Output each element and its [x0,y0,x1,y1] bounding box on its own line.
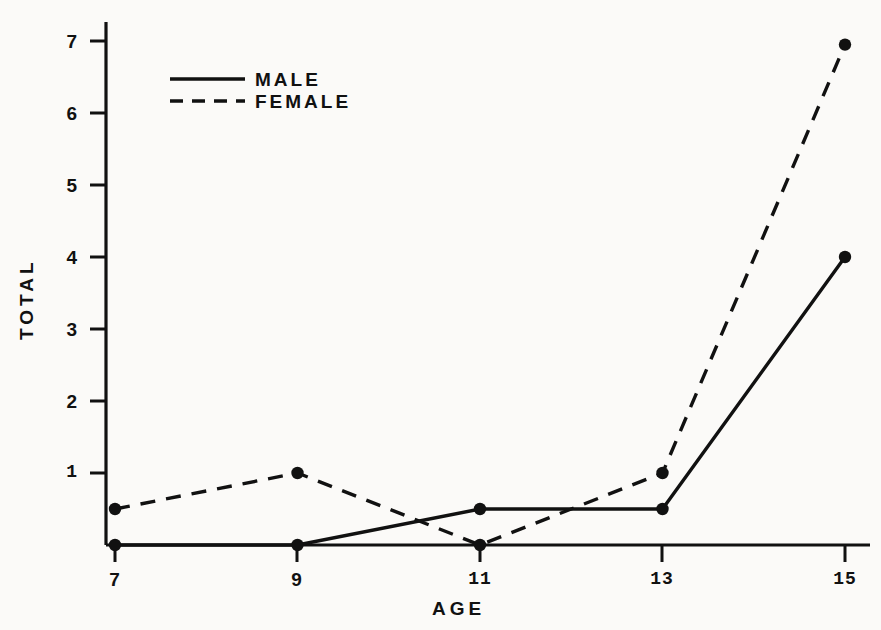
data-point [291,467,303,479]
x-tick-label-9: 9 [267,569,327,591]
y-tick-label-3: 3 [38,319,78,341]
legend-swatches [170,79,245,101]
y-axis-ticks [90,41,106,473]
y-tick-label-1: 1 [38,462,78,482]
data-point [839,38,851,50]
y-tick-label-6: 6 [38,103,78,125]
data-point [839,251,851,263]
x-axis-title: AGE [432,598,485,620]
legend-label-female: FEMALE [255,91,351,113]
x-tick-label-15: 15 [815,569,875,589]
series-line-female [115,45,845,545]
x-tick-label-7: 7 [85,569,145,591]
y-tick-label-7: 7 [38,31,78,53]
data-point [109,503,121,515]
chart-figure: 7 6 5 4 3 2 1 7 9 11 13 15 TOTAL AGE MAL… [0,0,881,630]
plot-area [0,0,881,630]
y-tick-label-5: 5 [38,175,78,197]
x-tick-label-13: 13 [632,569,692,589]
data-point [109,539,121,551]
series-markers-female [109,38,851,551]
data-point [291,539,303,551]
y-tick-label-4: 4 [38,247,78,269]
data-point [474,503,486,515]
data-point [656,467,668,479]
y-axis-title: TOTAL [16,258,38,340]
x-tick-label-11: 11 [450,569,510,589]
legend-label-male: MALE [255,69,321,91]
data-point [474,539,486,551]
y-tick-label-2: 2 [38,391,78,413]
data-point [656,503,668,515]
